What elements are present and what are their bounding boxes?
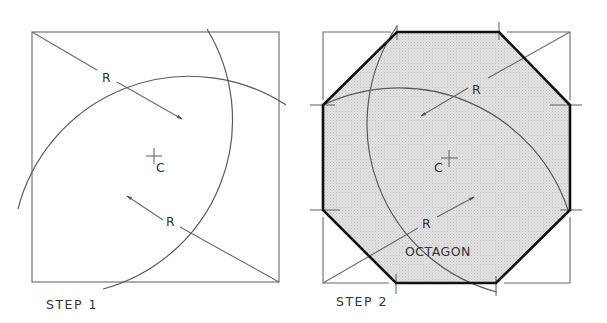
step1-square	[32, 32, 279, 282]
octagon-label: OCTAGON	[405, 244, 471, 259]
step1-radius-line-top	[32, 32, 97, 70]
step2-panel: R C R OCTAGON STEP 2	[310, 22, 582, 309]
step2-caption: STEP 2	[336, 294, 388, 309]
step2-center-label: C	[434, 160, 443, 175]
octagon-construction-diagram: R C R STEP 1	[0, 0, 607, 323]
step1-center-label: C	[156, 160, 165, 175]
step1-caption: STEP 1	[46, 297, 98, 312]
step1-radius-line-bottom	[180, 227, 279, 282]
step1-arc-from-top-left	[103, 29, 233, 289]
step1-radius-arrow-bottom	[127, 196, 163, 220]
step2-radius-label-bottom: R	[422, 216, 431, 231]
step1-panel: R C R STEP 1	[18, 29, 286, 312]
step1-arc-from-bottom-right	[18, 76, 286, 209]
step2-radius-label-top: R	[472, 82, 481, 97]
step1-radius-label-bottom: R	[166, 214, 175, 229]
step1-radius-label-top: R	[102, 70, 111, 85]
